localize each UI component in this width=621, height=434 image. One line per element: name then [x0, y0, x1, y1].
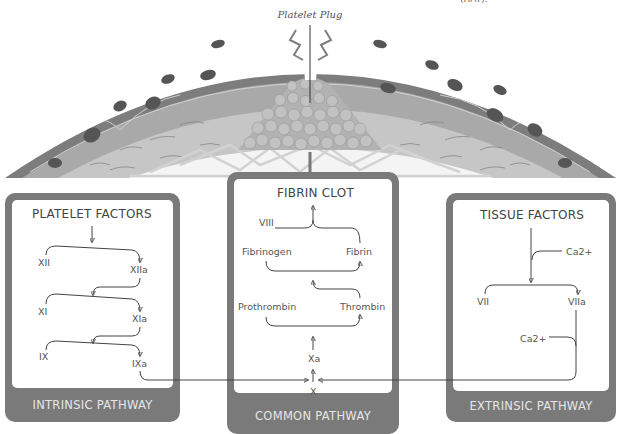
intrinsic-pathway-panel: INTRINSIC PATHWAY — [5, 193, 180, 422]
factor-vii: VII — [477, 296, 489, 307]
prothrombin-label: Prothrombin — [238, 301, 296, 312]
factor-viii: VIII — [259, 217, 274, 228]
thrombin-label: Thrombin — [340, 301, 385, 312]
fibrin-clot-title: FIBRIN CLOT — [277, 186, 354, 200]
factor-xia: XIa — [132, 313, 147, 324]
factor-x: X — [310, 386, 317, 397]
extrinsic-pathway-footer: EXTRINSIC PATHWAY — [446, 391, 616, 422]
factor-xa: Xa — [308, 353, 320, 364]
factor-ixa: IXa — [132, 358, 147, 369]
factor-xii: XII — [38, 257, 50, 268]
calcium-label-1: Ca2+ — [566, 246, 592, 257]
factor-ix: IX — [39, 351, 48, 362]
tissue-factors-title: TISSUE FACTORS — [480, 208, 584, 222]
factor-xi: XI — [38, 306, 47, 317]
fibrinogen-label: Fibrinogen — [242, 246, 292, 257]
vessel-illustration — [0, 0, 621, 180]
factor-xiia: XIIa — [130, 264, 148, 275]
platelet-plug-label: Platelet Plug — [240, 9, 380, 20]
extrinsic-pathway-panel: EXTRINSIC PATHWAY — [446, 193, 616, 422]
intrinsic-panel-body — [12, 200, 173, 388]
calcium-label-2: Ca2+ — [520, 333, 546, 344]
platelet-factors-title: PLATELET FACTORS — [32, 207, 152, 221]
intrinsic-pathway-footer: INTRINSIC PATHWAY — [5, 388, 180, 422]
fibrin-label: Fibrin — [346, 246, 372, 257]
common-pathway-footer: COMMON PATHWAY — [227, 398, 399, 434]
factor-viia: VIIa — [568, 296, 586, 307]
